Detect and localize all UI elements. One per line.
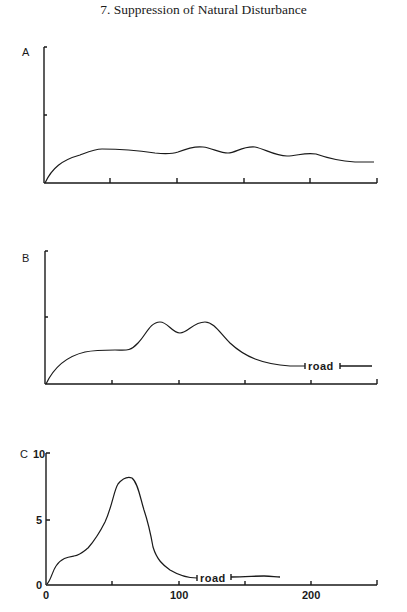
panel-b-road-label: road [308, 360, 334, 372]
panel-a-curve [45, 147, 374, 183]
y-tick-label-10: 10 [33, 448, 45, 460]
panel-b-y-axis [45, 251, 48, 384]
panel-b: B road [22, 251, 377, 384]
panel-a-y-axis [44, 47, 47, 183]
panel-c: C 10 5 0 0 100 200 road [20, 448, 377, 601]
panel-c-y-axis [46, 453, 50, 585]
x-tick-label-200: 200 [302, 589, 320, 601]
panel-b-road-marker-right [340, 363, 372, 369]
panel-a-label: A [22, 46, 30, 58]
y-tick-label-0: 0 [36, 579, 42, 591]
x-tick-label-100: 100 [170, 589, 188, 601]
panel-a-x-axis [44, 178, 377, 183]
panel-b-x-axis [45, 379, 377, 384]
figure: A B road C 10 5 0 0 100 200 road [0, 0, 407, 612]
panel-b-label: B [22, 252, 29, 264]
panel-c-road-label: road [200, 572, 226, 584]
panel-a: A [22, 46, 377, 183]
panel-c-label: C [20, 448, 28, 460]
y-tick-label-5: 5 [36, 514, 42, 526]
panel-b-curve [46, 322, 305, 384]
panel-c-curve [47, 477, 197, 584]
panel-c-road-marker-right [231, 574, 280, 580]
x-tick-label-0: 0 [43, 589, 49, 601]
